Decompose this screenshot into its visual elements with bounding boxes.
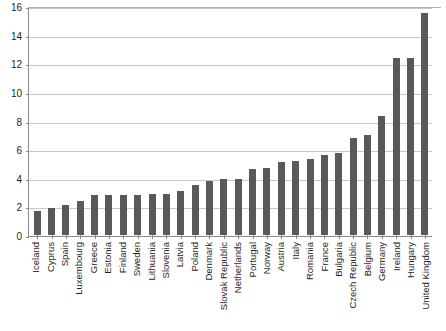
bar-slot: [403, 8, 417, 235]
y-axis-tick-mark: [26, 208, 29, 209]
x-axis-tick-label: Portugal: [248, 242, 258, 277]
y-axis-tick-label: 0: [0, 232, 22, 242]
x-axis-tick-label: Greece: [89, 242, 99, 273]
x-axis-tick-mark: [310, 235, 311, 239]
x-axis-tick-mark: [138, 235, 139, 239]
x-axis-tick-label: Iceland: [31, 242, 41, 273]
y-axis-tick-label: 16: [0, 3, 22, 13]
x-axis-tick-label: Czech Republic: [349, 242, 359, 309]
x-axis-tick-mark: [267, 235, 268, 239]
bar: [105, 195, 112, 235]
bar-slot: [389, 8, 403, 235]
bar: [120, 195, 127, 235]
bar: [292, 161, 299, 235]
bar: [421, 13, 428, 235]
x-axis-tick-label: Finland: [118, 242, 128, 273]
bar-slot: [288, 8, 302, 235]
x-axis-tick-label: Sweden: [132, 242, 142, 276]
bar: [335, 153, 342, 235]
x-axis-tick-label: Ireland: [392, 242, 402, 271]
x-axis-tick-label: France: [320, 242, 330, 272]
y-axis-tick-mark: [26, 237, 29, 238]
x-axis-label-slot: Latvia: [173, 242, 187, 322]
x-axis-tick-label: Luxembourg: [75, 242, 85, 295]
x-axis-label-slot: Lithuania: [144, 242, 158, 322]
bar: [235, 179, 242, 235]
x-axis-label-slot: Greece: [87, 242, 101, 322]
x-axis-tick-label: Italy: [291, 242, 301, 259]
x-axis-tick-label: Belgium: [363, 242, 373, 276]
bar-slot: [131, 8, 145, 235]
x-axis-tick-mark: [296, 235, 297, 239]
x-axis-label-slot: Slovak Republic: [216, 242, 230, 322]
x-axis-tick-label: Norway: [262, 242, 272, 274]
bar-slot: [87, 8, 101, 235]
x-axis-tick-mark: [339, 235, 340, 239]
bar: [192, 185, 199, 235]
bar: [77, 201, 84, 235]
x-axis-label-slot: Luxembourg: [72, 242, 86, 322]
x-axis-label-slot: Czech Republic: [346, 242, 360, 322]
x-axis-label-slot: Italy: [289, 242, 303, 322]
x-axis-tick-mark: [52, 235, 53, 239]
bar-slot: [332, 8, 346, 235]
y-axis-tick-mark: [26, 151, 29, 152]
bar: [393, 58, 400, 235]
y-axis-tick-label: 14: [0, 32, 22, 42]
bar-chart: 0246810121416 IcelandCyprusSpainLuxembou…: [0, 0, 446, 331]
bar: [62, 205, 69, 235]
bar: [249, 169, 256, 235]
bar-slot: [418, 8, 432, 235]
bar-slot: [217, 8, 231, 235]
x-axis-tick-label: Austria: [277, 242, 287, 272]
x-axis-label-slot: Norway: [260, 242, 274, 322]
x-axis-tick-mark: [253, 235, 254, 239]
bar-slot: [44, 8, 58, 235]
x-axis-tick-label: Slovenia: [161, 242, 171, 278]
bar-slot: [375, 8, 389, 235]
bar: [134, 195, 141, 235]
x-axis-tick-mark: [324, 235, 325, 239]
bar-slot: [360, 8, 374, 235]
bar-slot: [303, 8, 317, 235]
x-axis-tick-mark: [411, 235, 412, 239]
y-axis-tick-mark: [26, 123, 29, 124]
x-axis-tick-label: Germany: [378, 242, 388, 281]
x-axis-label-slot: Austria: [274, 242, 288, 322]
bar: [350, 138, 357, 235]
x-axis-label-slot: Bulgaria: [332, 242, 346, 322]
x-axis-label-slot: Cyprus: [43, 242, 57, 322]
x-axis-tick-label: Poland: [190, 242, 200, 272]
x-axis-label-slot: Sweden: [130, 242, 144, 322]
y-axis-tick-label: 2: [0, 203, 22, 213]
x-axis-tick-mark: [367, 235, 368, 239]
x-axis-tick-label: Cyprus: [46, 242, 56, 272]
y-axis-tick-label: 10: [0, 89, 22, 99]
x-axis-label-slot: Netherlands: [231, 242, 245, 322]
x-axis-label-slot: Spain: [58, 242, 72, 322]
bar-slot: [188, 8, 202, 235]
x-axis-label-slot: Iceland: [29, 242, 43, 322]
x-axis-label-slot: France: [317, 242, 331, 322]
bar-slot: [59, 8, 73, 235]
x-axis-tick-mark: [37, 235, 38, 239]
bar-slot: [202, 8, 216, 235]
bar-series: [30, 8, 432, 235]
bar: [91, 195, 98, 235]
y-axis-tick-mark: [26, 180, 29, 181]
bar: [206, 181, 213, 235]
bar-slot: [174, 8, 188, 235]
x-axis-tick-mark: [425, 235, 426, 239]
y-axis-tick-label: 12: [0, 60, 22, 70]
x-axis-label-slot: Poland: [188, 242, 202, 322]
x-axis-tick-mark: [80, 235, 81, 239]
x-axis-tick-mark: [382, 235, 383, 239]
x-axis-tick-mark: [238, 235, 239, 239]
x-axis-tick-mark: [224, 235, 225, 239]
y-axis-tick-mark: [26, 8, 29, 9]
x-axis-label-slot: Slovenia: [159, 242, 173, 322]
bar: [48, 208, 55, 235]
x-axis-label-slot: Denmark: [202, 242, 216, 322]
bar: [220, 179, 227, 235]
y-axis-tick-mark: [26, 94, 29, 95]
